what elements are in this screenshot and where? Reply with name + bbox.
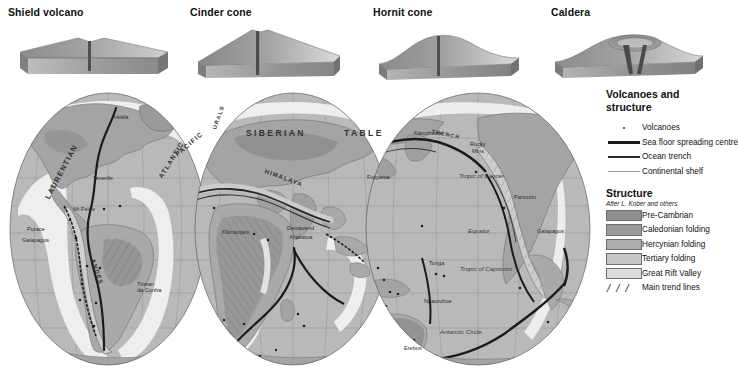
volcano-dot-icon (606, 127, 642, 130)
diagram-cinder-cone: Cinder cone (190, 6, 360, 84)
diagram-label: Shield volcano (8, 6, 84, 18)
legend-structure-credit: After L. Kober and others (606, 200, 725, 207)
caldera-art (551, 22, 721, 88)
ocean-trench-icon (606, 156, 642, 158)
legend-row-spreading-centre: Sea floor spreading centre (606, 137, 725, 149)
map-lobe-pacific (364, 93, 592, 370)
sea-floor-spreading-icon (606, 141, 642, 144)
legend-title: Volcanoes and structure (606, 88, 725, 113)
main-trend-lines-icon: / / / (606, 283, 642, 293)
legend-label: Tertiary folding (642, 254, 695, 264)
diagram-label: Cinder cone (190, 6, 252, 18)
legend-row-hercynian-folding: Hercynian folding (606, 239, 725, 251)
legend-label: Sea floor spreading centre (642, 138, 738, 148)
diagram-caldera: Caldera (551, 6, 721, 84)
hercynian-folding-swatch (606, 239, 642, 251)
pre-cambrian-swatch (606, 210, 642, 222)
legend-row-tertiary-folding: Tertiary folding (606, 253, 725, 265)
diagram-shield-volcano: Shield volcano (8, 6, 178, 84)
legend-row-main-trend-lines: / / / Main trend lines (606, 282, 725, 294)
legend-label: Hercynian folding (642, 240, 705, 250)
legend-label: Pre-Cambrian (642, 211, 693, 221)
tertiary-folding-swatch (606, 253, 642, 265)
legend-label: Continental shelf (642, 167, 703, 177)
caledonian-folding-swatch (606, 224, 642, 236)
legend-row-great-rift-valley: Great Rift Valley (606, 268, 725, 280)
legend-row-caledonian-folding: Caledonian folding (606, 224, 725, 236)
legend-row-volcanoes: Volcanoes (606, 122, 725, 134)
legend-row-continental-shelf: Continental shelf (606, 166, 725, 178)
diagram-hornit-cone: Hornit cone (373, 6, 543, 84)
diagram-label: Caldera (551, 6, 590, 18)
great-rift-valley-swatch (606, 268, 642, 280)
legend-label: Main trend lines (642, 283, 700, 293)
legend-row-ocean-trench: Ocean trench (606, 151, 725, 163)
diagram-label: Hornit cone (373, 6, 432, 18)
shield-volcano-art (8, 22, 178, 88)
hornit-cone-art (373, 22, 543, 88)
legend-label: Caledonian folding (642, 225, 710, 235)
map-legend: Volcanoes and structure Volcanoes Sea fl… (606, 88, 725, 288)
legend-label: Ocean trench (642, 152, 691, 162)
world-map: Tropic of CancerEquatorTropic of Caprico… (8, 88, 596, 370)
legend-label: Great Rift Valley (642, 269, 701, 279)
cinder-cone-art (190, 22, 360, 88)
legend-title-line1: Volcanoes and (606, 88, 679, 100)
legend-title-line2: structure (606, 101, 652, 113)
legend-label: Volcanoes (642, 123, 680, 133)
legend-structure-heading: Structure (606, 187, 725, 199)
map-lobe-americas (8, 93, 208, 370)
continental-shelf-icon (606, 171, 642, 172)
legend-row-pre-cambrian: Pre-Cambrian (606, 210, 725, 222)
